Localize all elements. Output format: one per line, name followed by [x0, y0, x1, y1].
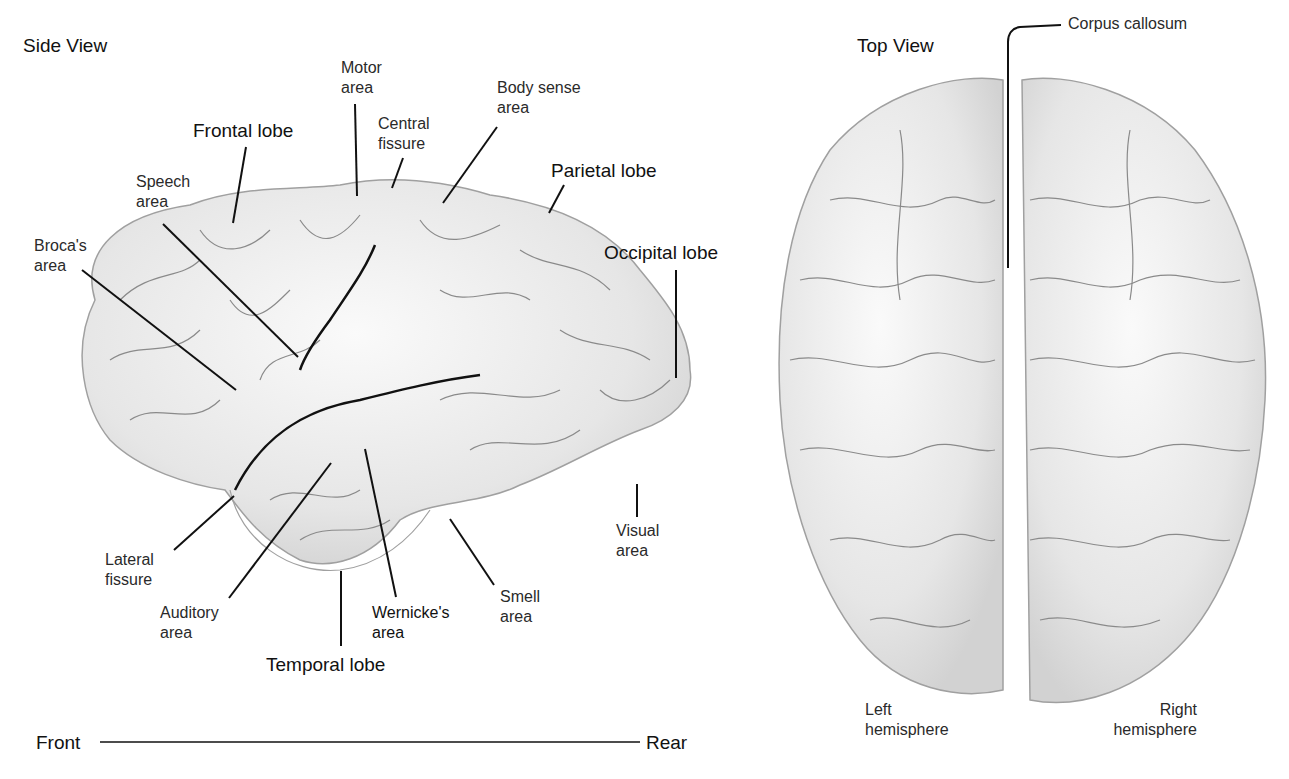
label-parietal-lobe: Parietal lobe — [551, 160, 657, 182]
brain-illustration — [0, 0, 1289, 779]
label-body-sense-area: Body sense area — [497, 78, 581, 118]
axis-front-label: Front — [36, 732, 80, 754]
label-right-hemisphere: Right hemisphere — [1089, 700, 1197, 740]
label-auditory-area: Auditory area — [160, 603, 219, 643]
side-view-title: Side View — [23, 36, 107, 56]
label-temporal-lobe: Temporal lobe — [266, 654, 385, 676]
label-wernickes-area: Wernicke's area — [372, 603, 449, 643]
label-brocas-area: Broca's area — [34, 236, 87, 276]
label-motor-area: Motor area — [341, 58, 382, 98]
label-lateral-fissure: Lateral fissure — [105, 550, 154, 590]
label-speech-area: Speech area — [136, 172, 190, 212]
label-corpus-callosum: Corpus callosum — [1068, 14, 1187, 34]
label-visual-area: Visual area — [616, 521, 659, 561]
side-view-brain — [82, 180, 690, 571]
label-smell-area: Smell area — [500, 587, 540, 627]
top-view-brain — [779, 78, 1265, 702]
top-view-title: Top View — [857, 36, 934, 56]
label-left-hemisphere: Left hemisphere — [865, 700, 949, 740]
label-occipital-lobe: Occipital lobe — [604, 242, 718, 264]
label-frontal-lobe: Frontal lobe — [193, 120, 293, 142]
label-central-fissure: Central fissure — [378, 114, 430, 154]
axis-rear-label: Rear — [646, 732, 687, 754]
